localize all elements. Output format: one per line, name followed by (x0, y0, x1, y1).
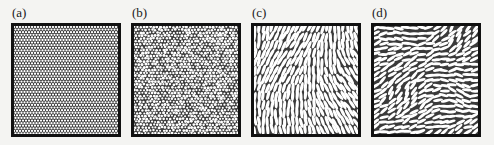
panel-label: (c) (252, 5, 266, 21)
panel-d: (d) (371, 0, 483, 145)
panel-label: (a) (12, 5, 26, 21)
panel-label: (b) (132, 5, 147, 21)
panel-label: (d) (372, 5, 387, 21)
polydisperse-disk-packing-image (131, 23, 241, 137)
aligned-ellipse-packing-image (251, 23, 361, 137)
panel-b: (b) (131, 0, 243, 145)
disordered-ellipse-packing-image (371, 23, 481, 137)
panel-c: (c) (251, 0, 363, 145)
panel-a: (a) (11, 0, 123, 145)
hexagonal-disk-packing-image (11, 23, 121, 137)
